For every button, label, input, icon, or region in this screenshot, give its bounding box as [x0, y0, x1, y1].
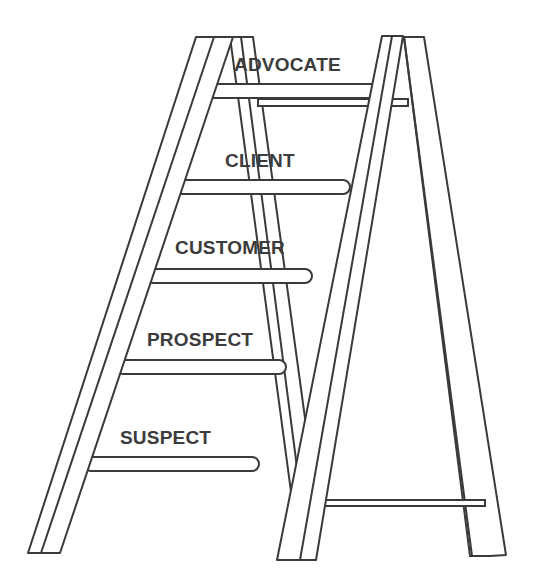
ladder-diagram: ADVOCATE CLIENT CUSTOMER PROSPECT SUSPEC…	[0, 0, 550, 585]
back-right-leg	[404, 37, 506, 556]
rung-label-suspect: SUSPECT	[120, 427, 211, 449]
rung-label-advocate: ADVOCATE	[234, 54, 341, 76]
front-right-rail	[277, 36, 403, 560]
rung-label-customer: CUSTOMER	[175, 237, 285, 259]
rung-label-client: CLIENT	[225, 150, 295, 172]
front-left-rail	[28, 37, 233, 553]
ladder-drawing	[0, 0, 550, 585]
rung-label-prospect: PROSPECT	[147, 329, 253, 351]
lower-brace	[301, 500, 485, 506]
